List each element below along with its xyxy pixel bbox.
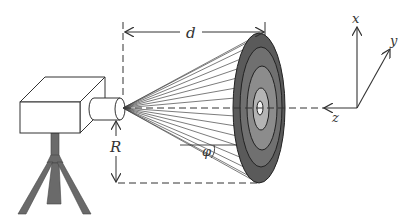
radius-label: R	[109, 138, 121, 156]
angle-label: φ	[202, 144, 212, 159]
axis-z-label: z	[331, 110, 339, 125]
distance-label: d	[186, 24, 196, 42]
camera-target-diagram: d R φ x y z	[0, 0, 412, 221]
axis-y-label: y	[389, 33, 398, 48]
axis-x-label: x	[352, 11, 360, 26]
camera-lens	[89, 98, 125, 120]
coordinate-axes	[324, 27, 390, 108]
tripod	[18, 133, 91, 214]
